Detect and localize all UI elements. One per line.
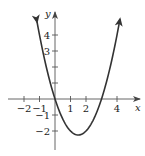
parabola-graph: −2−1124 43−1−2 x y [0, 0, 145, 156]
x-tick-label: 2 [83, 103, 89, 114]
x-tick-label: 1 [67, 103, 73, 114]
x-axis-label: x [135, 102, 141, 113]
y-axis-label: y [44, 8, 51, 19]
chart-canvas: −2−1124 43−1−2 x y [0, 0, 145, 156]
y-tick-label: −1 [35, 110, 50, 121]
x-tick-label: −2 [17, 103, 32, 114]
y-tick-label: 4 [44, 30, 50, 41]
x-tick-label: 4 [114, 103, 120, 114]
y-tick-label: 3 [44, 46, 50, 57]
y-tick-label: −2 [35, 126, 50, 137]
